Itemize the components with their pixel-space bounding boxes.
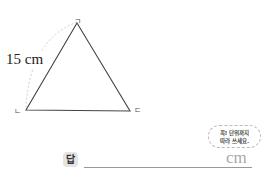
- side-length-label: 15 cm: [5, 51, 44, 68]
- hint-line-2: 따라 쓰세요.: [209, 137, 260, 145]
- hint-line-1: 꼭! 단위까지: [209, 129, 260, 137]
- vertex-label-bottom-left: ㄴ: [14, 105, 21, 116]
- vertex-label-top: ㄱ: [74, 15, 81, 26]
- vertex-label-bottom-right: ㄷ: [134, 104, 141, 115]
- answer-label-badge: 답: [63, 152, 78, 167]
- hint-speech-bubble: 꼭! 단위까지 따라 쓰세요.: [208, 125, 261, 148]
- answer-unit: cm: [226, 148, 247, 168]
